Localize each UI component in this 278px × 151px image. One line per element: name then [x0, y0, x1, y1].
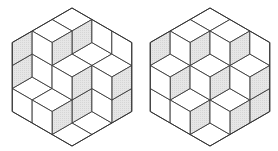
figure-canvas	[0, 0, 278, 151]
left-hexagon-tiling	[12, 8, 132, 146]
right-hexagon-tiling	[150, 8, 270, 146]
